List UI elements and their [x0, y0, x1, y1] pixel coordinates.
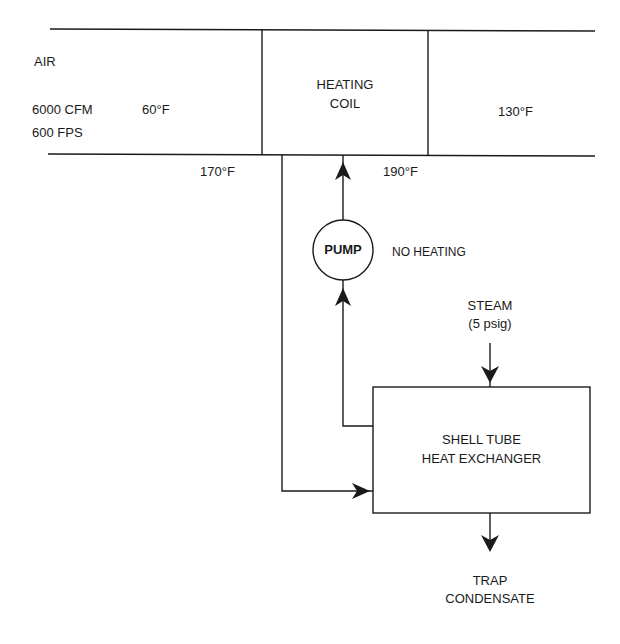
- steam-label-line1: STEAM: [450, 298, 530, 314]
- return-pipe: [282, 155, 373, 491]
- inlet-flow-label: 6000 CFM: [32, 102, 93, 118]
- duct-bottom-wall: [48, 154, 595, 156]
- inlet-temp-label: 60°F: [142, 102, 170, 118]
- steam-label: STEAM (5 psig): [450, 298, 530, 332]
- condensate-line2: CONDENSATE: [430, 591, 550, 607]
- heat-exchanger-line2: HEAT EXCHANGER: [373, 451, 590, 467]
- heating-coil-line2: COIL: [262, 96, 428, 112]
- duct-top-wall: [50, 29, 595, 31]
- heat-exchanger-label: SHELL TUBE HEAT EXCHANGER: [373, 432, 590, 467]
- outlet-temp-label: 130°F: [498, 104, 533, 120]
- supply-temp-label: 190°F: [383, 164, 418, 180]
- condensate-label: TRAP CONDENSATE: [430, 573, 550, 607]
- pump-label: PUMP: [313, 242, 373, 258]
- pump-note: NO HEATING: [392, 244, 466, 260]
- heating-coil-line1: HEATING: [262, 77, 428, 93]
- steam-label-line2: (5 psig): [450, 316, 530, 332]
- heating-coil-label: HEATING COIL: [262, 77, 428, 112]
- return-temp-label: 170°F: [200, 164, 235, 180]
- inlet-velocity-label: 600 FPS: [32, 125, 83, 141]
- heat-exchanger-line1: SHELL TUBE: [373, 432, 590, 448]
- condensate-line1: TRAP: [430, 573, 550, 589]
- air-label: AIR: [34, 54, 56, 70]
